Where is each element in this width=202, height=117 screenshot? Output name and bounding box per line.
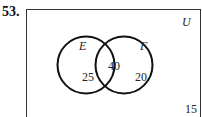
venn-diagram: U E F 25 40 20 15 [0,0,202,117]
set-e-label: E [78,39,87,53]
intersection-count: 40 [108,59,120,73]
set-e-only-count: 25 [82,70,94,84]
set-f-only-count: 20 [135,70,147,84]
set-f-label: F [139,39,148,53]
universe-label: U [182,15,192,29]
outside-count: 15 [185,102,197,116]
